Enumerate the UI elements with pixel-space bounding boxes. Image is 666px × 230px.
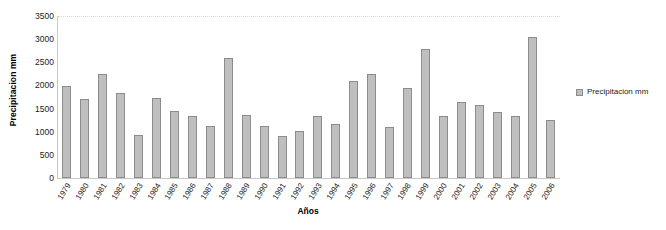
bar-slot — [381, 16, 399, 178]
y-axis-title: Precipitacion mm — [6, 0, 20, 180]
y-axis-tick-500: 500 — [20, 151, 54, 160]
y-axis-tick-3000: 3000 — [20, 35, 54, 44]
x-axis-tick-1981: 1981 — [92, 182, 108, 201]
bar-slot — [291, 16, 309, 178]
bar-2001[interactable] — [457, 102, 466, 178]
bar-1993[interactable] — [313, 116, 322, 178]
bar-slot — [148, 16, 166, 178]
bar-1980[interactable] — [80, 99, 89, 178]
x-axis-tick-1994: 1994 — [325, 182, 341, 201]
bar-1991[interactable] — [278, 136, 287, 178]
bar-slot — [130, 16, 148, 178]
bar-slot — [58, 16, 76, 178]
x-axis-tick-1993: 1993 — [307, 182, 323, 201]
precipitation-bar-chart: Precipitacion mm 05001000150020002500300… — [0, 0, 666, 230]
y-axis-tick-1000: 1000 — [20, 127, 54, 136]
bar-1985[interactable] — [170, 111, 179, 178]
bar-1979[interactable] — [62, 86, 71, 178]
bar-1994[interactable] — [331, 124, 340, 178]
x-axis-title: Años — [57, 206, 559, 216]
bar-1989[interactable] — [242, 115, 251, 178]
bar-slot — [542, 16, 560, 178]
x-axis-tick-1997: 1997 — [379, 182, 395, 201]
bar-series — [58, 16, 560, 178]
x-axis-tick-1979: 1979 — [57, 182, 73, 201]
bar-slot — [470, 16, 488, 178]
bar-slot — [345, 16, 363, 178]
bar-2003[interactable] — [493, 112, 502, 178]
bar-slot — [327, 16, 345, 178]
bar-slot — [399, 16, 417, 178]
y-axis-tick-2000: 2000 — [20, 81, 54, 90]
y-axis-tick-3500: 3500 — [20, 12, 54, 21]
bar-slot — [506, 16, 524, 178]
bar-2000[interactable] — [439, 116, 448, 178]
bar-1999[interactable] — [421, 49, 430, 178]
bar-1997[interactable] — [385, 127, 394, 178]
bar-1982[interactable] — [116, 93, 125, 178]
bar-slot — [219, 16, 237, 178]
bar-1987[interactable] — [206, 126, 215, 178]
y-axis-title-label: Precipitacion mm — [8, 54, 18, 126]
bar-1995[interactable] — [349, 81, 358, 178]
legend-item-label: Precipitacion mm — [587, 88, 648, 96]
x-axis-tick-2000: 2000 — [433, 182, 449, 201]
bar-slot — [524, 16, 542, 178]
x-axis-tick-1980: 1980 — [74, 182, 90, 201]
bar-slot — [309, 16, 327, 178]
bar-1984[interactable] — [152, 98, 161, 178]
bar-1990[interactable] — [260, 126, 269, 178]
bar-1983[interactable] — [134, 135, 143, 178]
x-axis-tick-1982: 1982 — [110, 182, 126, 201]
x-axis-tick-2001: 2001 — [451, 182, 467, 201]
bar-slot — [183, 16, 201, 178]
bar-1992[interactable] — [295, 131, 304, 178]
x-axis-tick-2006: 2006 — [540, 182, 556, 201]
bar-1998[interactable] — [403, 88, 412, 178]
x-axis-tick-1984: 1984 — [146, 182, 162, 201]
bar-slot — [452, 16, 470, 178]
x-axis-tick-1991: 1991 — [272, 182, 288, 201]
x-axis-tick-2004: 2004 — [505, 182, 521, 201]
y-axis-tick-labels: 0500100015002000250030003500 — [20, 0, 54, 185]
bar-slot — [76, 16, 94, 178]
x-axis-tick-1999: 1999 — [415, 182, 431, 201]
x-axis-tick-1990: 1990 — [254, 182, 270, 201]
bar-slot — [237, 16, 255, 178]
bar-1996[interactable] — [367, 74, 376, 178]
x-axis-tick-2003: 2003 — [487, 182, 503, 201]
x-axis-tick-2005: 2005 — [522, 182, 538, 201]
bar-slot — [112, 16, 130, 178]
x-axis-tick-1998: 1998 — [397, 182, 413, 201]
x-axis-tick-1992: 1992 — [290, 182, 306, 201]
y-axis-tick-2500: 2500 — [20, 58, 54, 67]
bar-slot — [273, 16, 291, 178]
bar-slot — [94, 16, 112, 178]
bar-slot — [488, 16, 506, 178]
legend-swatch-icon — [576, 89, 583, 96]
y-axis-tick-0: 0 — [20, 174, 54, 183]
bar-2004[interactable] — [511, 116, 520, 178]
plot-area — [57, 16, 560, 179]
x-axis-tick-1989: 1989 — [236, 182, 252, 201]
bar-1986[interactable] — [188, 116, 197, 178]
bar-2002[interactable] — [475, 105, 484, 178]
x-axis-tick-1985: 1985 — [164, 182, 180, 201]
legend: Precipitacion mm — [576, 88, 648, 96]
bar-2006[interactable] — [546, 120, 555, 178]
x-axis-tick-1987: 1987 — [200, 182, 216, 201]
x-axis-tick-1983: 1983 — [128, 182, 144, 201]
bar-slot — [434, 16, 452, 178]
y-axis-tick-1500: 1500 — [20, 104, 54, 113]
x-axis-tick-1988: 1988 — [218, 182, 234, 201]
x-axis-tick-1995: 1995 — [343, 182, 359, 201]
x-axis-tick-1996: 1996 — [361, 182, 377, 201]
bar-2005[interactable] — [528, 37, 537, 178]
bar-slot — [363, 16, 381, 178]
bar-1981[interactable] — [98, 74, 107, 178]
bar-slot — [201, 16, 219, 178]
bar-slot — [255, 16, 273, 178]
bar-1988[interactable] — [224, 58, 233, 178]
x-axis-tick-2002: 2002 — [469, 182, 485, 201]
x-axis-tick-1986: 1986 — [182, 182, 198, 201]
